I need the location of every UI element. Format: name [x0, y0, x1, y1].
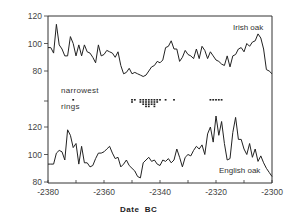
x-axis-title: Date BC	[120, 205, 157, 214]
rings-label: rings	[61, 102, 80, 111]
y-tick-label: 100	[28, 39, 42, 49]
y-tick-label: 80	[33, 66, 43, 76]
x-tick-label: -2300	[261, 187, 283, 197]
y-tick-label: 80	[33, 177, 43, 187]
x-tick-label: -2380	[37, 187, 59, 197]
y-tick-label: 120	[28, 122, 42, 132]
tree-ring-chart: 80100120 80100120 -2380-2360-2340-2320-2…	[0, 0, 297, 222]
x-tick-label: -2360	[93, 187, 115, 197]
english-y-axis: 80100120	[28, 122, 48, 187]
narrowest-rings-markers	[72, 99, 222, 107]
y-tick-label: 100	[28, 150, 42, 160]
irish-oak-series	[48, 24, 272, 76]
english-oak-label: English oak	[219, 166, 261, 175]
irish-y-axis: 80100120	[28, 11, 48, 76]
irish-oak-label: Irish oak	[233, 23, 264, 32]
x-tick-label: -2340	[149, 187, 171, 197]
narrowest-label: narrowest	[61, 86, 99, 95]
x-tick-label: -2320	[205, 187, 227, 197]
y-tick-label: 120	[28, 11, 42, 21]
